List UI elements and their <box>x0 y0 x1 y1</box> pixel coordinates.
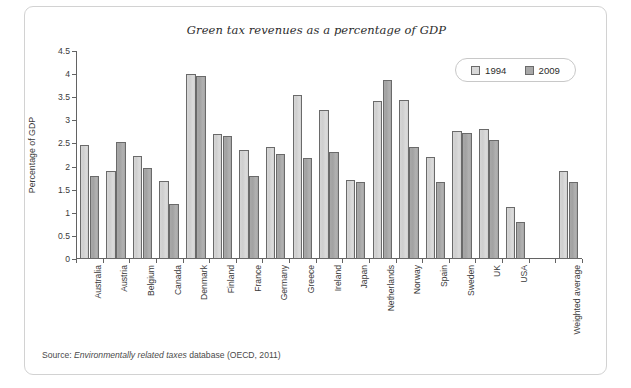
bar <box>266 147 276 259</box>
y-tick-mark <box>72 120 76 121</box>
legend-item[interactable]: 2009 <box>525 65 560 76</box>
x-axis-label: Weighted average <box>572 195 582 265</box>
y-tick-label: 4 <box>65 69 70 79</box>
x-axis-label-text: Netherlands <box>386 265 396 311</box>
x-axis-label: Denmark <box>199 230 209 265</box>
x-axis-label-text: Sweden <box>466 265 476 296</box>
x-tick-mark <box>582 259 583 263</box>
plot-area: 00.511.522.533.544.5 Percentage of GDP A… <box>76 51 582 259</box>
x-axis-label-text: USA <box>519 265 529 283</box>
source-emphasis: Environmentally related taxes <box>74 350 187 360</box>
figure-frame: Green tax revenues as a percentage of GD… <box>24 6 607 375</box>
x-tick-mark <box>289 259 290 263</box>
y-tick-label: 1 <box>65 208 70 218</box>
x-tick-mark <box>183 259 184 263</box>
y-tick-mark <box>72 97 76 98</box>
y-axis-title: Percentage of GDP <box>27 117 37 193</box>
legend-item[interactable]: 1994 <box>471 65 506 76</box>
y-tick-label: 4.5 <box>58 46 70 56</box>
bar <box>479 129 489 259</box>
x-axis-label-text: UK <box>492 265 502 277</box>
x-axis-label: UK <box>492 253 502 265</box>
y-tick-label: 3 <box>65 115 70 125</box>
x-axis-label-text: Weighted average <box>572 265 582 335</box>
x-axis-label-text: Ireland <box>333 265 343 291</box>
x-axis-label-text: Denmark <box>199 265 209 300</box>
x-tick-mark <box>76 259 77 263</box>
x-tick-mark <box>129 259 130 263</box>
bar <box>399 100 409 259</box>
y-tick-mark <box>72 213 76 214</box>
x-axis-label-text: Austria <box>119 265 129 292</box>
y-tick-label: 0.5 <box>58 231 70 241</box>
bar <box>489 140 499 259</box>
bar <box>452 131 462 259</box>
bar <box>426 157 436 259</box>
bar <box>373 101 383 259</box>
y-tick-mark <box>72 143 76 144</box>
x-axis-label-text: Canada <box>173 265 183 295</box>
bar <box>213 134 223 259</box>
y-tick-mark <box>72 190 76 191</box>
x-axis-label-text: Greece <box>306 265 316 293</box>
y-tick-label: 1.5 <box>58 185 70 195</box>
bar <box>133 156 143 259</box>
x-tick-mark <box>316 259 317 263</box>
legend-label: 2009 <box>539 65 560 76</box>
y-tick-label: 3.5 <box>58 92 70 102</box>
y-tick-label: 0 <box>65 254 70 264</box>
x-tick-mark <box>529 259 530 263</box>
y-tick-mark <box>72 167 76 168</box>
x-axis-label-text: Germany <box>279 265 289 300</box>
x-tick-mark <box>369 259 370 263</box>
x-tick-mark <box>502 259 503 263</box>
x-axis-label-text: France <box>253 265 263 292</box>
legend-swatch <box>525 66 534 75</box>
x-tick-mark <box>103 259 104 263</box>
y-tick-mark <box>72 74 76 75</box>
bar <box>159 181 169 259</box>
x-axis-label: Japan <box>359 242 369 265</box>
legend-label: 1994 <box>485 65 506 76</box>
y-tick-mark <box>72 236 76 237</box>
x-axis-label: Greece <box>306 237 316 265</box>
x-axis-label-text: Australia <box>93 265 103 298</box>
x-axis-label: Austria <box>119 238 129 265</box>
x-axis-label: Australia <box>93 232 103 265</box>
bar <box>346 180 356 259</box>
source-note: Source: Environmentally related taxes da… <box>42 350 281 360</box>
x-axis-label: France <box>253 238 263 265</box>
bar <box>106 171 116 259</box>
x-axis-label-text: Finland <box>226 265 236 293</box>
x-axis-label: USA <box>519 247 529 265</box>
x-axis-label: Germany <box>279 230 289 265</box>
y-axis-line <box>76 51 77 259</box>
bar <box>319 110 329 259</box>
source-prefix: Source: <box>42 350 74 360</box>
y-tick-label: 2.5 <box>58 138 70 148</box>
y-tick-mark <box>72 51 76 52</box>
x-axis-label-text: Belgium <box>146 265 156 296</box>
bar <box>239 150 249 259</box>
x-tick-mark <box>209 259 210 263</box>
x-tick-mark <box>555 259 556 263</box>
x-axis-label-text: Spain <box>439 265 449 287</box>
x-axis-label: Finland <box>226 237 236 265</box>
bar <box>506 207 516 259</box>
x-axis-label: Belgium <box>146 234 156 265</box>
x-axis-label-text: Japan <box>359 265 369 288</box>
x-tick-mark <box>236 259 237 263</box>
x-tick-mark <box>396 259 397 263</box>
x-axis-label: Netherlands <box>386 219 396 265</box>
x-tick-mark <box>449 259 450 263</box>
x-axis-label: Spain <box>439 243 449 265</box>
x-axis-label: Norway <box>412 236 422 265</box>
x-tick-mark <box>156 259 157 263</box>
bar <box>186 74 196 259</box>
x-axis-label: Ireland <box>333 239 343 265</box>
chart-title: Green tax revenues as a percentage of GD… <box>25 23 608 37</box>
bar <box>80 145 90 259</box>
source-suffix: database (OECD, 2011) <box>187 350 281 360</box>
bar <box>559 171 569 259</box>
x-tick-mark <box>262 259 263 263</box>
